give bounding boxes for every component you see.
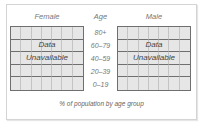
female-header: Female: [10, 12, 84, 21]
age-header: Age: [86, 12, 115, 21]
unavailable-line1: Data: [117, 40, 191, 50]
unavailable-line2: Unavailable: [117, 53, 191, 63]
unavailable-line1: Data: [10, 40, 84, 50]
age-label-20-39: 20–39: [86, 67, 115, 76]
age-label-40-59: 40–59: [86, 54, 115, 63]
age-label-0-19: 0–19: [86, 80, 115, 89]
female-unavailable: Data Unavailable: [10, 26, 84, 91]
male-unavailable: Data Unavailable: [117, 26, 191, 91]
chart-caption: % of population by age group: [6, 100, 197, 107]
male-header: Male: [117, 12, 191, 21]
age-label-60-79: 60–79: [86, 41, 115, 50]
unavailable-line2: Unavailable: [10, 53, 84, 63]
age-label-80plus: 80+: [86, 28, 115, 37]
